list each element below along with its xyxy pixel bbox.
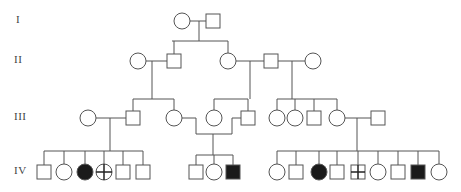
female-circle-icon <box>96 164 112 180</box>
male-square-icon <box>351 165 365 179</box>
generation-label-iv: IV <box>14 164 27 176</box>
female-circle-icon <box>431 164 447 180</box>
male-square-icon <box>116 165 130 179</box>
male-square-icon <box>411 165 425 179</box>
female-circle-icon <box>305 53 321 69</box>
male-square-icon <box>37 165 51 179</box>
female-circle-icon <box>80 110 96 126</box>
female-circle-icon <box>269 110 285 126</box>
female-circle-icon <box>329 110 345 126</box>
generation-label-i: I <box>16 13 20 25</box>
female-circle-icon <box>220 53 236 69</box>
male-square-icon <box>330 165 344 179</box>
male-square-icon <box>226 165 240 179</box>
female-circle-icon <box>56 164 72 180</box>
pedigree-lines <box>44 21 439 165</box>
female-circle-icon <box>206 164 222 180</box>
male-square-icon <box>167 54 181 68</box>
female-circle-icon <box>311 164 327 180</box>
male-square-icon <box>371 111 385 125</box>
female-circle-icon <box>206 110 222 126</box>
generation-label-iii: III <box>14 110 27 122</box>
male-square-icon <box>241 111 255 125</box>
male-square-icon <box>126 111 140 125</box>
male-square-icon <box>307 111 321 125</box>
female-circle-icon <box>77 164 93 180</box>
generation-label-ii: II <box>14 53 22 65</box>
female-circle-icon <box>287 110 303 126</box>
female-circle-icon <box>130 53 146 69</box>
male-square-icon <box>206 14 220 28</box>
male-square-icon <box>289 165 303 179</box>
female-circle-icon <box>370 164 386 180</box>
male-square-icon <box>136 165 150 179</box>
pedigree-individuals <box>37 13 447 180</box>
female-circle-icon <box>269 164 285 180</box>
pedigree-chart <box>0 0 461 192</box>
female-circle-icon <box>166 110 182 126</box>
male-square-icon <box>264 54 278 68</box>
male-square-icon <box>391 165 405 179</box>
male-square-icon <box>189 165 203 179</box>
female-circle-icon <box>174 13 190 29</box>
